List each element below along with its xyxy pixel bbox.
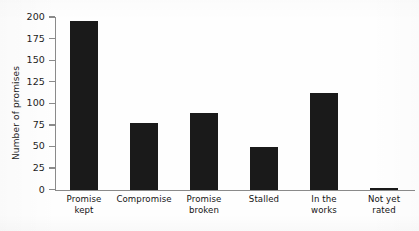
y-tick-mark — [49, 124, 55, 125]
y-tick-label: 75 — [33, 120, 45, 130]
y-tick-mark — [49, 103, 55, 104]
x-tick-label-line: Not yet — [354, 194, 414, 205]
bar[interactable] — [70, 21, 98, 189]
y-tick-mark — [49, 146, 55, 147]
x-tick-label-line: kept — [54, 205, 114, 216]
x-tick-label-line: In the — [294, 194, 354, 205]
bar[interactable] — [190, 113, 218, 190]
y-tick-label: 150 — [27, 55, 45, 65]
y-tick-mark — [49, 38, 55, 39]
x-tick-label: Compromise — [114, 194, 174, 205]
bar[interactable] — [250, 147, 278, 189]
x-tick-label: Promisekept — [54, 194, 114, 216]
y-tick-label: 50 — [33, 141, 45, 151]
y-tick-label: 200 — [27, 12, 45, 22]
y-tick-mark — [49, 167, 55, 168]
y-tick-label: 0 — [39, 185, 45, 195]
x-tick-label-line: rated — [354, 205, 414, 216]
chart-figure: 0255075100125150175200 PromisekeptCompro… — [0, 0, 419, 231]
y-tick-mark — [49, 189, 55, 190]
bar[interactable] — [370, 188, 398, 190]
x-tick-label-line: Promise — [174, 194, 234, 205]
y-tick-label: 175 — [27, 34, 45, 44]
y-tick-label: 25 — [33, 163, 45, 173]
plot-area: 0255075100125150175200 PromisekeptCompro… — [0, 0, 419, 231]
y-axis-title: Number of promises — [11, 53, 21, 173]
x-tick-label: Promisebroken — [174, 194, 234, 216]
bar[interactable] — [130, 123, 158, 189]
x-tick-label-line: Compromise — [114, 194, 174, 205]
y-axis-line — [55, 17, 56, 190]
y-tick-mark — [49, 60, 55, 61]
x-tick-label: Not yetrated — [354, 194, 414, 216]
y-tick-label: 125 — [27, 77, 45, 87]
x-tick-label: Stalled — [234, 194, 294, 205]
x-axis-line — [55, 190, 415, 191]
y-tick-mark — [49, 81, 55, 82]
x-tick-label-line: Promise — [54, 194, 114, 205]
bar[interactable] — [310, 93, 338, 190]
x-tick-label: In theworks — [294, 194, 354, 216]
x-tick-label-line: works — [294, 205, 354, 216]
y-tick-mark — [49, 16, 55, 17]
x-tick-label-line: broken — [174, 205, 234, 216]
x-tick-label-line: Stalled — [234, 194, 294, 205]
y-tick-label: 100 — [27, 98, 45, 108]
